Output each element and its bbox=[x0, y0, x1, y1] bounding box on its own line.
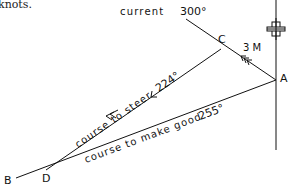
vector-triangle-diagram: knots. A C D B current 300° 3 M course t… bbox=[0, 0, 293, 184]
current-line bbox=[186, 19, 276, 80]
header-text: knots. bbox=[0, 0, 32, 11]
point-label-b: B bbox=[4, 174, 12, 184]
course-to-make-good-label: course to make good bbox=[83, 111, 203, 165]
current-bearing: 300° bbox=[180, 5, 207, 18]
current-distance: 3 M bbox=[243, 42, 261, 53]
course-to-make-good-bearing: 255° bbox=[197, 101, 226, 122]
point-label-c: C bbox=[218, 33, 226, 46]
point-label-d: D bbox=[42, 172, 50, 184]
current-label: current bbox=[120, 6, 164, 17]
point-label-a: A bbox=[280, 72, 288, 85]
north-cross-icon bbox=[267, 18, 285, 40]
course-to-steer-bearing: 224° bbox=[153, 69, 182, 95]
